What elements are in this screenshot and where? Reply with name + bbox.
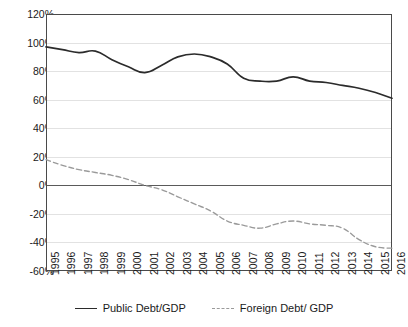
chart-container: 120%100%80%60%40%20%0%-20%-40%-60% 19951…	[0, 0, 408, 327]
x-axis-tick-label: 2005	[215, 252, 225, 275]
legend-label-public-debt-gdp: Public Debt/GDP	[103, 302, 186, 314]
x-axis-tick-label: 2013	[347, 252, 357, 275]
x-axis-tick-label: 1997	[83, 252, 93, 275]
x-axis-tick-label: 2011	[314, 252, 324, 275]
legend-swatch-solid-icon	[75, 308, 97, 309]
series-layer	[46, 14, 392, 271]
x-axis-tick-label: 2015	[380, 252, 390, 275]
legend-label-foreign-debt-gdp: Foreign Debt/ GDP	[240, 302, 334, 314]
x-axis-tick-label: 2004	[198, 252, 208, 275]
line-public-debt-gdp	[46, 47, 392, 98]
x-axis-tick-label: 1998	[99, 252, 109, 275]
x-axis-tick-label: 2016	[396, 252, 406, 275]
x-axis-tick-label: 2007	[248, 252, 258, 275]
x-axis-tick-label: 2006	[231, 252, 241, 275]
line-foreign-debt-gdp	[46, 160, 392, 249]
x-axis-tick-label: 2003	[182, 252, 192, 275]
x-axis-tick-label: 1996	[66, 252, 76, 275]
x-axis-tick-label: 2001	[149, 252, 159, 275]
x-axis-tick-label: 2014	[363, 252, 373, 275]
x-axis-tick-label: 2002	[165, 252, 175, 275]
x-axis-tick-label: 1999	[116, 252, 126, 275]
x-axis-tick-label: 2012	[330, 252, 340, 275]
x-axis-tick-label: 1995	[50, 252, 60, 275]
x-axis-tick-label: 2009	[281, 252, 291, 275]
legend-item-public-debt-gdp: Public Debt/GDP	[75, 302, 186, 314]
legend-item-foreign-debt-gdp: Foreign Debt/ GDP	[212, 302, 334, 314]
x-axis-tick-label: 2008	[264, 252, 274, 275]
chart-legend: Public Debt/GDP Foreign Debt/ GDP	[0, 302, 408, 314]
legend-swatch-dashed-icon	[212, 308, 234, 309]
x-axis-tick-label: 2000	[132, 252, 142, 275]
x-axis-tick-label: 2010	[297, 252, 307, 275]
